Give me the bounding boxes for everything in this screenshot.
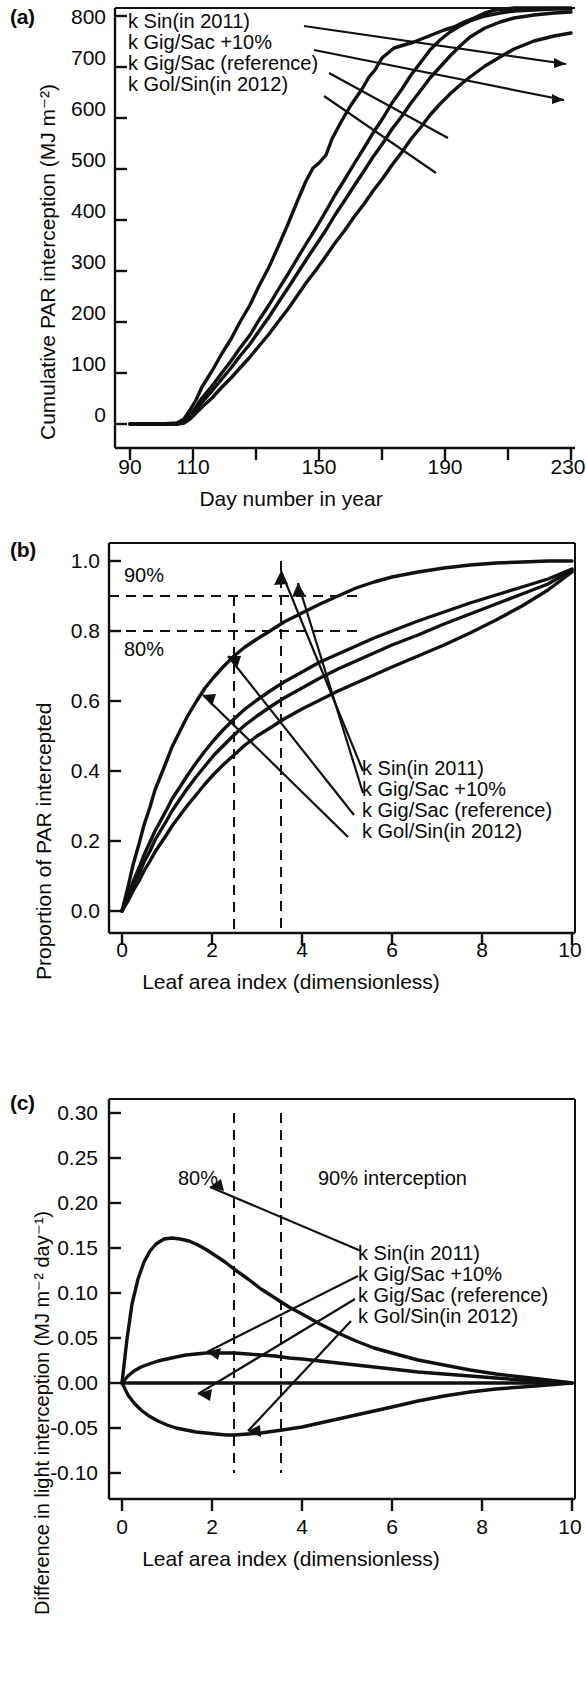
series-lines bbox=[122, 561, 572, 911]
leader-lines bbox=[198, 1187, 361, 1431]
legend-item: k Gol/Sin(in 2012) bbox=[362, 821, 552, 842]
annotation-90pct-interception: 90% interception bbox=[318, 1167, 467, 1190]
legend-item: k Gol/Sin(in 2012) bbox=[358, 1306, 548, 1327]
panel-c-legend: k Sin(in 2011) k Gig/Sac +10% k Gig/Sac … bbox=[358, 1243, 548, 1327]
legend-item: k Gig/Sac +10% bbox=[128, 32, 318, 53]
panel-b-legend: k Sin(in 2011) k Gig/Sac +10% k Gig/Sac … bbox=[362, 758, 552, 842]
xtick: 90 bbox=[118, 455, 141, 479]
panel-b-label: (b) bbox=[10, 538, 36, 562]
ytick: -0.05 bbox=[50, 1416, 98, 1440]
leader-line-4 bbox=[248, 1321, 351, 1431]
legend-item: k Sin(in 2011) bbox=[128, 11, 318, 32]
legend-item: k Gig/Sac +10% bbox=[358, 1264, 548, 1285]
ytick: 0.0 bbox=[71, 899, 100, 923]
leader-arrowheads bbox=[552, 58, 566, 104]
xtick: 8 bbox=[476, 938, 488, 962]
annotation-80pct: 80% bbox=[124, 638, 164, 661]
ytick: 300 bbox=[71, 250, 106, 274]
y-tick-marks bbox=[115, 16, 127, 424]
leader-line-2 bbox=[207, 1276, 358, 1352]
xtick: 230 bbox=[550, 455, 585, 479]
panel-b: (b) Proportion of PAR intercepted 0.0 0.… bbox=[0, 520, 582, 1095]
reference-lines bbox=[234, 1113, 281, 1473]
leader-arrowheads bbox=[198, 1179, 261, 1437]
panel-b-xlabel: Leaf area index (dimensionless) bbox=[0, 970, 582, 994]
x-tick-marks bbox=[122, 933, 572, 945]
xtick: 190 bbox=[427, 455, 462, 479]
ytick: 0.10 bbox=[57, 1281, 98, 1305]
legend-item: k Gig/Sac +10% bbox=[362, 779, 552, 800]
panel-a-xlabel: Day number in year bbox=[0, 487, 582, 511]
leader-lines bbox=[304, 26, 566, 173]
ytick: 0.30 bbox=[57, 1101, 98, 1125]
panel-a: (a) Cumulative PAR interception (MJ m⁻²)… bbox=[0, 0, 582, 530]
annotation-90pct: 90% bbox=[124, 564, 164, 587]
xtick: 6 bbox=[386, 938, 398, 962]
ytick: 500 bbox=[71, 148, 106, 172]
ytick: 0.6 bbox=[71, 689, 100, 713]
xtick: 6 bbox=[386, 1515, 398, 1539]
panel-a-legend: k Sin(in 2011) k Gig/Sac +10% k Gig/Sac … bbox=[128, 11, 318, 95]
xtick: 4 bbox=[296, 1515, 308, 1539]
x-tick-marks bbox=[122, 1499, 572, 1511]
series-line-k-gol-sin-2012 bbox=[122, 1383, 572, 1435]
ytick: 0.2 bbox=[71, 829, 100, 853]
ytick: 200 bbox=[71, 301, 106, 325]
leader-line-3 bbox=[198, 1299, 355, 1394]
xtick: 0 bbox=[116, 938, 128, 962]
leader-line-1 bbox=[281, 571, 363, 771]
xtick: 110 bbox=[176, 455, 209, 479]
legend-item: k Gig/Sac (reference) bbox=[128, 53, 318, 74]
ytick: 0 bbox=[94, 403, 106, 427]
xtick: 2 bbox=[206, 1515, 218, 1539]
xtick: 2 bbox=[206, 938, 218, 962]
reference-lines bbox=[109, 561, 358, 933]
legend-item: k Gig/Sac (reference) bbox=[362, 800, 552, 821]
xtick: 10 bbox=[558, 938, 581, 962]
ytick: 0.05 bbox=[57, 1326, 98, 1350]
series-line-k-gig-sac-10 bbox=[122, 1353, 572, 1383]
panel-c: (c) Difference in light interception (MJ… bbox=[0, 1085, 582, 1689]
legend-item: k Gig/Sac (reference) bbox=[358, 1285, 548, 1306]
leader-line-4 bbox=[324, 96, 436, 173]
ytick: 0.15 bbox=[57, 1236, 98, 1260]
xtick: 4 bbox=[296, 938, 308, 962]
xtick: 8 bbox=[476, 1515, 488, 1539]
ytick: 400 bbox=[71, 199, 106, 223]
panel-c-yticks: -0.10 -0.05 0.00 0.05 0.10 0.15 0.20 0.2… bbox=[44, 1085, 98, 1535]
legend-item: k Sin(in 2011) bbox=[362, 758, 552, 779]
leader-line-1 bbox=[210, 1187, 361, 1251]
ytick: 0.00 bbox=[57, 1371, 98, 1395]
annotation-80pct: 80% bbox=[178, 1167, 218, 1190]
ytick: 1.0 bbox=[71, 549, 100, 573]
ytick: 0.8 bbox=[71, 619, 100, 643]
panel-b-yticks: 0.0 0.2 0.4 0.6 0.8 1.0 bbox=[46, 520, 100, 940]
leader-lines bbox=[203, 571, 363, 837]
ytick: 800 bbox=[71, 5, 106, 29]
ytick: 600 bbox=[71, 97, 106, 121]
leader-line-3 bbox=[329, 73, 448, 138]
y-tick-marks bbox=[109, 1113, 121, 1473]
xtick: 150 bbox=[301, 455, 336, 479]
xtick: 10 bbox=[558, 1515, 581, 1539]
ytick: 700 bbox=[71, 46, 106, 70]
panel-a-yticks: 0 100 200 300 400 500 600 700 800 bbox=[52, 0, 106, 420]
legend-item: k Sin(in 2011) bbox=[358, 1243, 548, 1264]
leader-line-2 bbox=[298, 583, 363, 793]
panel-c-xlabel: Leaf area index (dimensionless) bbox=[0, 1547, 582, 1571]
panel-b-plot bbox=[108, 543, 576, 933]
ytick: 0.4 bbox=[71, 759, 100, 783]
panel-a-label: (a) bbox=[10, 5, 35, 29]
ytick: 0.20 bbox=[57, 1191, 98, 1215]
y-tick-marks bbox=[109, 561, 121, 911]
ytick: -0.10 bbox=[50, 1461, 98, 1485]
panel-c-label: (c) bbox=[10, 1091, 35, 1115]
ytick: 0.25 bbox=[57, 1146, 98, 1170]
xtick: 0 bbox=[116, 1515, 128, 1539]
legend-item: k Gol/Sin(in 2012) bbox=[128, 74, 318, 95]
ytick: 100 bbox=[71, 352, 106, 376]
